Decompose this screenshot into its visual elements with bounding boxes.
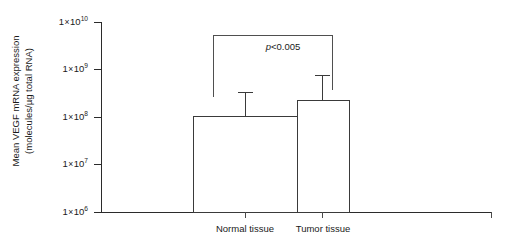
- y-axis-label-1e6-exponent: 6: [84, 205, 88, 212]
- y-axis-label-1e9-times: ×: [68, 64, 74, 74]
- significance-bracket-top: [213, 35, 333, 36]
- significance-p-value-label: p<0.005: [233, 41, 333, 52]
- y-axis-label-1e6-times: ×: [68, 207, 74, 217]
- error-bar-cap-tumor-tissue: [315, 75, 330, 76]
- x-axis-tick-tumor-tissue: [322, 212, 323, 218]
- y-axis-tick-1e7: [94, 164, 101, 165]
- y-axis-label-1e9-exponent: 9: [84, 62, 88, 69]
- error-bar-stem-tumor-tissue: [322, 75, 323, 101]
- error-bar-stem-normal-tissue: [245, 92, 246, 117]
- y-axis-label-1e6: 1×106: [0, 207, 88, 218]
- y-axis-label-1e9: 1×109: [0, 64, 88, 75]
- y-axis-line: [101, 22, 102, 213]
- y-axis-tick-1e6: [94, 212, 101, 213]
- bar-tumor-tissue: [297, 100, 350, 213]
- y-axis-label-1e8-mantissa: 1: [62, 111, 67, 122]
- x-axis-tick-normal-tissue: [245, 212, 246, 218]
- y-axis-label-1e7-mantissa: 1: [62, 158, 67, 169]
- x-axis-label-tumor-tissue: Tumor tissue: [274, 223, 372, 234]
- y-axis-tick-1e10: [94, 22, 101, 23]
- x-axis-end-cap: [491, 212, 492, 218]
- bar-normal-tissue: [193, 116, 298, 213]
- y-axis-label-1e10: 1×1010: [0, 17, 88, 28]
- y-axis-label-1e10-times: ×: [64, 17, 70, 27]
- y-axis-label-1e6-mantissa: 1: [62, 206, 67, 217]
- y-axis-label-1e7-exponent: 7: [84, 157, 88, 164]
- y-axis-label-1e8: 1×108: [0, 112, 88, 123]
- p-value-comparison: <0.005: [271, 41, 300, 52]
- y-axis-tick-1e8: [94, 117, 101, 118]
- y-axis-label-1e8-exponent: 8: [84, 110, 88, 117]
- error-bar-cap-normal-tissue: [238, 92, 253, 93]
- significance-bracket-left-leg: [213, 35, 214, 97]
- y-axis-tick-1e9: [94, 69, 101, 70]
- y-axis-label-1e7-times: ×: [68, 159, 74, 169]
- y-axis-label-1e9-mantissa: 1: [62, 63, 67, 74]
- y-axis-label-1e8-times: ×: [68, 112, 74, 122]
- y-axis-label-1e7: 1×107: [0, 159, 88, 170]
- y-axis-label-1e10-exponent: 10: [81, 15, 88, 22]
- vegf-mrna-expression-bar-chart: Mean VEGF mRNA expression (molecules/µg …: [0, 0, 520, 249]
